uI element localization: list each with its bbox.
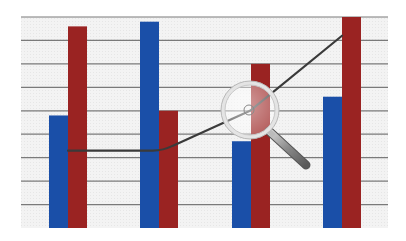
- bar-line-chart: [0, 0, 406, 241]
- bar-red: [159, 111, 178, 228]
- bar-blue: [232, 141, 251, 228]
- bar-blue: [49, 115, 68, 228]
- bar-blue: [140, 22, 159, 228]
- bar-blue: [323, 97, 342, 228]
- bar-red: [342, 17, 361, 228]
- bar-red: [68, 26, 87, 228]
